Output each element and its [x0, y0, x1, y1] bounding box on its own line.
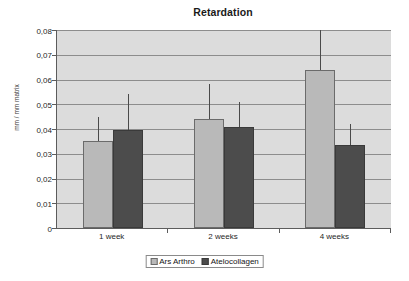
x-tick-label: 1 week [99, 232, 124, 241]
y-tick-label: 0,01 [8, 199, 52, 208]
x-tick-label: 4 weeks [320, 232, 349, 241]
y-tick-label: 0,04 [8, 125, 52, 134]
y-tick-mark [52, 179, 56, 180]
y-tick-label: 0,03 [8, 150, 52, 159]
legend-label: Atelocollagen [211, 257, 259, 266]
y-tick-mark [52, 154, 56, 155]
y-tick-label: 0,08 [8, 26, 52, 35]
retardation-bar-chart: Retardation mm / mm matrix 00,010,020,03… [0, 0, 409, 281]
chart-legend: Ars ArthroAtelocollagen [145, 255, 264, 268]
x-axis-tick-labels: 1 week2 weeks4 weeks [56, 232, 390, 246]
y-tick-mark [52, 104, 56, 105]
gridline [57, 104, 391, 105]
gridline [57, 30, 391, 31]
error-bar [98, 117, 99, 142]
y-tick-label: 0,07 [8, 51, 52, 60]
x-tick-mark [279, 229, 280, 233]
plot-area [56, 30, 391, 229]
y-tick-label: 0,02 [8, 175, 52, 184]
gridline [57, 80, 391, 81]
x-tick-mark [390, 229, 391, 233]
y-tick-label: 0,06 [8, 76, 52, 85]
error-bar [209, 84, 210, 119]
y-tick-mark [52, 30, 56, 31]
y-tick-mark [52, 228, 56, 229]
error-bar [320, 30, 321, 70]
y-tick-mark [52, 55, 56, 56]
y-tick-label: 0,05 [8, 100, 52, 109]
error-bar [239, 102, 240, 127]
y-axis-tick-labels: 00,010,020,030,040,050,060,070,08 [4, 30, 52, 228]
error-bar [128, 94, 129, 130]
bar [83, 141, 113, 228]
legend-swatch [150, 258, 157, 265]
bar [335, 145, 365, 228]
legend-entry: Atelocollagen [202, 257, 259, 266]
legend-entry: Ars Arthro [150, 257, 195, 266]
y-tick-mark [52, 203, 56, 204]
plot-inner [57, 30, 391, 228]
legend-label: Ars Arthro [159, 257, 195, 266]
bar [194, 119, 224, 228]
y-tick-mark [52, 129, 56, 130]
bar [224, 127, 254, 228]
y-tick-label: 0 [8, 224, 52, 233]
chart-title: Retardation [56, 6, 390, 18]
x-tick-mark [167, 229, 168, 233]
bar [113, 130, 143, 228]
x-tick-label: 2 weeks [208, 232, 237, 241]
y-tick-mark [52, 80, 56, 81]
legend-swatch [202, 258, 209, 265]
gridline [57, 55, 391, 56]
error-bar [350, 124, 351, 145]
bar [305, 70, 335, 228]
